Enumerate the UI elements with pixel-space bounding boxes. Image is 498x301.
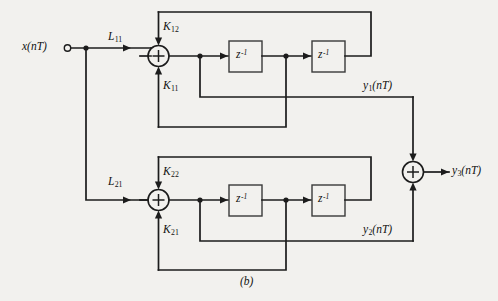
label-signal-y1: y1(nT) [363, 80, 392, 93]
arrowhead-bottom-delay1-in [220, 196, 228, 203]
label-coefficient-L21: L21 [108, 176, 123, 189]
arrowhead-K21 [155, 211, 162, 219]
figure-caption: (b) [240, 276, 253, 288]
label-coefficient-K12: K12 [163, 21, 179, 34]
arrowhead-top-delay2-in [303, 52, 311, 59]
label-coefficient-L11: L11 [108, 31, 122, 44]
arrowhead-K11 [155, 67, 162, 75]
arrowhead-K12 [155, 38, 162, 46]
label-signal-y3: y3(nT) [452, 165, 481, 178]
arrowhead-top-delay1-in [220, 52, 228, 59]
arrowhead-y3 [441, 168, 449, 175]
arrowhead-y2-into-output-summer [409, 183, 416, 191]
label-coefficient-K21: K21 [163, 224, 179, 237]
figure-container: x(nT) L11 L21 K12 K11 K22 K21 y1(nT) y2(… [0, 0, 498, 301]
arrowhead-y1-into-output-summer [409, 154, 416, 162]
delay-bottom-1-label: z-1 [236, 193, 247, 205]
arrowhead-bottom-delay2-in [303, 196, 311, 203]
delay-top-2-label: z-1 [318, 49, 329, 61]
signal-flow-diagram [0, 0, 498, 301]
arrowhead-K22 [155, 182, 162, 190]
input-terminal-icon [64, 45, 70, 51]
delay-bottom-2-label: z-1 [318, 193, 329, 205]
label-coefficient-K11: K11 [163, 80, 179, 93]
label-input-signal: x(nT) [22, 41, 47, 53]
arrowhead-L11 [123, 44, 131, 51]
arrowhead-L21 [123, 196, 131, 203]
label-coefficient-K22: K22 [163, 166, 179, 179]
label-signal-y2: y2(nT) [363, 224, 392, 237]
delay-top-1-label: z-1 [236, 49, 247, 61]
